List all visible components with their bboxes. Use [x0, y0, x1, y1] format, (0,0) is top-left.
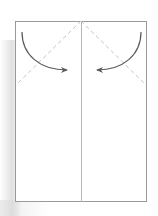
fold-diagram [0, 0, 158, 216]
